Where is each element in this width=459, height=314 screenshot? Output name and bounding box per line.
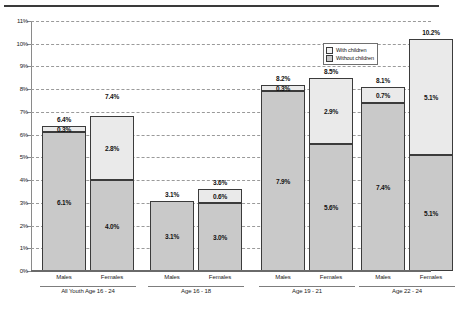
- y-axis-tick-label: 3%: [4, 199, 28, 206]
- stacked-bar[interactable]: 5.6%2.9%: [309, 78, 353, 271]
- bar-segment-value-label: 0.7%: [362, 91, 404, 98]
- gridline: [31, 66, 431, 67]
- y-axis-line: [31, 21, 32, 271]
- bar-segment-value-label: 7.9%: [262, 178, 304, 185]
- bar-segment-without-children[interactable]: 7.4%: [361, 103, 405, 271]
- bar-segment-value-label: 0.3%: [43, 125, 85, 132]
- stacked-bar[interactable]: 3.1%: [150, 201, 194, 271]
- x-axis-category-label: Females: [190, 274, 250, 280]
- bar-segment-value-label: 6.1%: [43, 198, 85, 205]
- bar-segment-with-children[interactable]: 2.8%: [90, 116, 134, 180]
- bar-total-value-label: 6.4%: [42, 116, 86, 123]
- top-divider-rule: [4, 5, 439, 7]
- group-label: All Youth Age 16 - 24: [40, 288, 136, 294]
- bar-segment-with-children[interactable]: 2.9%: [309, 78, 353, 144]
- y-axis-tick-label: 7%: [4, 108, 28, 115]
- group-underline-rule: [359, 286, 455, 287]
- bar-segment-value-label: 7.4%: [362, 183, 404, 190]
- bar-segment-value-label: 4.0%: [91, 222, 133, 229]
- bar-segment-value-label: 5.1%: [410, 94, 452, 101]
- group-label: Age 22 - 24: [359, 288, 455, 294]
- y-axis-tick-label: 9%: [4, 63, 28, 70]
- bar-segment-value-label: 0.3%: [262, 85, 304, 92]
- legend-label-with-children: With children: [336, 47, 367, 53]
- bar-segment-value-label: 3.0%: [199, 233, 241, 240]
- bar-total-value-label: 8.5%: [309, 68, 353, 75]
- bar-segment-without-children[interactable]: 3.0%: [198, 203, 242, 271]
- bar-segment-with-children[interactable]: 0.7%: [361, 87, 405, 103]
- stacked-bar[interactable]: 3.0%0.6%: [198, 189, 242, 271]
- plot-area: 6.1%0.3%6.4%4.0%2.8%7.4%3.1%3.1%3.0%0.6%…: [31, 21, 431, 271]
- y-axis-tick-label: 1%: [4, 245, 28, 252]
- bar-segment-without-children[interactable]: 4.0%: [90, 180, 134, 271]
- y-axis-tick-label: 5%: [4, 154, 28, 161]
- y-axis-tick-label: 6%: [4, 131, 28, 138]
- group-underline-rule: [40, 286, 136, 287]
- legend-swatch-with-children-icon: [326, 47, 333, 54]
- bar-total-value-label: 8.2%: [261, 75, 305, 82]
- gridline: [31, 21, 431, 22]
- stacked-bar[interactable]: 5.1%5.1%: [409, 39, 453, 271]
- group-label: Age 16 - 18: [148, 288, 244, 294]
- bar-total-value-label: 8.1%: [361, 77, 405, 84]
- x-axis-category-label: Females: [401, 274, 459, 280]
- stacked-bar[interactable]: 7.4%0.7%: [361, 87, 405, 271]
- y-axis-tick-label: 8%: [4, 86, 28, 93]
- bar-segment-without-children[interactable]: 7.9%: [261, 91, 305, 271]
- group-underline-rule: [259, 286, 355, 287]
- bar-segment-value-label: 0.6%: [199, 193, 241, 200]
- bar-total-value-label: 3.1%: [150, 191, 194, 198]
- bar-segment-without-children[interactable]: 6.1%: [42, 132, 86, 271]
- y-axis-tick-label: 2%: [4, 222, 28, 229]
- legend-item-with-children: With children: [326, 46, 374, 54]
- x-axis-line: [31, 270, 431, 271]
- stacked-bar[interactable]: 6.1%0.3%: [42, 126, 86, 271]
- stacked-bar[interactable]: 7.9%0.3%: [261, 85, 305, 271]
- x-axis-category-label: Females: [301, 274, 361, 280]
- y-axis-tick-label: 11%: [4, 18, 28, 25]
- bar-segment-value-label: 3.1%: [151, 232, 193, 239]
- legend-label-without-children: Without children: [336, 55, 374, 61]
- chart-legend: With children Without children: [323, 43, 378, 65]
- bar-segment-value-label: 5.1%: [410, 210, 452, 217]
- gridline: [31, 271, 431, 272]
- bar-segment-value-label: 2.8%: [91, 145, 133, 152]
- bar-total-value-label: 3.6%: [198, 179, 242, 186]
- legend-item-without-children: Without children: [326, 54, 374, 62]
- y-axis-tick-label: 10%: [4, 40, 28, 47]
- x-axis-category-label: Females: [82, 274, 142, 280]
- y-axis-tick-label: 4%: [4, 177, 28, 184]
- bar-total-value-label: 7.4%: [90, 93, 134, 100]
- bar-segment-without-children[interactable]: 3.1%: [150, 201, 194, 271]
- bar-segment-with-children[interactable]: 5.1%: [409, 39, 453, 155]
- y-axis-tick-label: 0%: [4, 268, 28, 275]
- bar-segment-value-label: 2.9%: [310, 107, 352, 114]
- bar-segment-with-children[interactable]: 0.3%: [42, 126, 86, 133]
- legend-swatch-without-children-icon: [326, 55, 333, 62]
- bar-segment-with-children[interactable]: 0.3%: [261, 85, 305, 92]
- group-underline-rule: [148, 286, 244, 287]
- bar-segment-with-children[interactable]: 0.6%: [198, 189, 242, 203]
- group-label: Age 19 - 21: [259, 288, 355, 294]
- bar-segment-without-children[interactable]: 5.1%: [409, 155, 453, 271]
- bar-total-value-label: 10.2%: [409, 29, 453, 36]
- stacked-bar[interactable]: 4.0%2.8%: [90, 103, 134, 271]
- bar-segment-value-label: 5.6%: [310, 204, 352, 211]
- bar-segment-without-children[interactable]: 5.6%: [309, 144, 353, 271]
